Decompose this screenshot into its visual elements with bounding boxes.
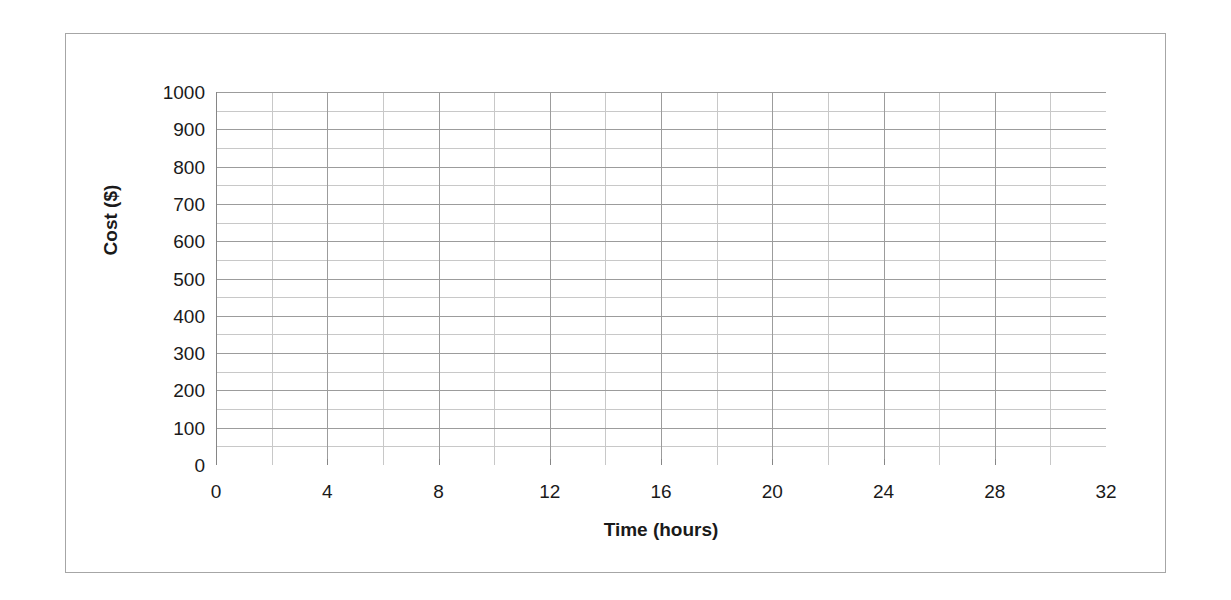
y-axis-tick-label: 700 [125, 195, 205, 214]
x-axis-tick-label: 20 [732, 482, 812, 501]
x-axis-tick-label: 8 [399, 482, 479, 501]
plot-area [216, 92, 1106, 465]
x-axis-tick-label: 0 [176, 482, 256, 501]
x-axis-tick-label: 28 [955, 482, 1035, 501]
y-axis-tick-label: 800 [125, 158, 205, 177]
x-axis-tick-labels: 048121620242832 [216, 482, 1106, 508]
x-axis-tick-label: 4 [287, 482, 367, 501]
x-axis-tick-label: 32 [1066, 482, 1146, 501]
y-axis-tick-label: 1000 [125, 83, 205, 102]
y-axis-tick-label: 600 [125, 232, 205, 251]
x-axis-tick-label: 24 [844, 482, 924, 501]
y-axis-tick-label: 300 [125, 344, 205, 363]
x-axis-tick-label: 12 [510, 482, 590, 501]
chart-root: Cost ($) 1000900800700600500400300200100… [0, 0, 1231, 600]
plot-grid-svg [216, 92, 1106, 465]
y-axis-tick-label: 500 [125, 270, 205, 289]
y-axis-tick-label: 400 [125, 307, 205, 326]
x-axis-title: Time (hours) [216, 519, 1106, 541]
y-axis-tick-label: 900 [125, 120, 205, 139]
y-axis-tick-labels: 10009008007006005004003002001000 [125, 92, 205, 465]
x-axis-tick-label: 16 [621, 482, 701, 501]
y-axis-tick-label: 200 [125, 381, 205, 400]
y-axis-title: Cost ($) [96, 100, 126, 340]
y-axis-tick-label: 0 [125, 456, 205, 475]
y-axis-tick-label: 100 [125, 419, 205, 438]
